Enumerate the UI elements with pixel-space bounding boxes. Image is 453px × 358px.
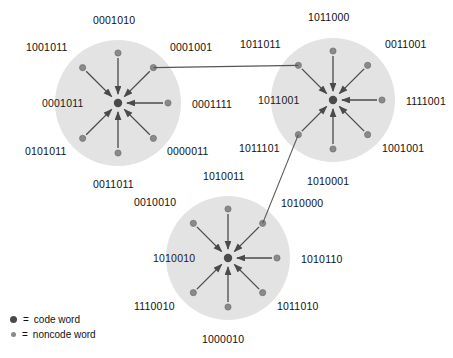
code-word-label: 1010010 bbox=[153, 252, 195, 264]
code-word-dot bbox=[329, 96, 337, 104]
noncode-word-label: 0001010 bbox=[93, 14, 135, 26]
noncode-word-label: 1011010 bbox=[277, 300, 319, 312]
noncode-word-label: 1011011 bbox=[240, 38, 281, 50]
noncode-word-label: 1010001 bbox=[307, 175, 349, 187]
noncode-word-dot bbox=[190, 220, 196, 226]
noncode-word-dot bbox=[225, 304, 231, 310]
hamming-spheres-figure: 0001010000100100011110000011001101101010… bbox=[0, 0, 453, 358]
noncode-word-label: 1000010 bbox=[202, 333, 244, 345]
noncode-word-dot bbox=[330, 48, 336, 54]
link-sphere1-sphere2 bbox=[153, 65, 298, 67]
code-word-dot bbox=[10, 316, 17, 323]
legend-equals: = bbox=[22, 329, 28, 340]
legend-noncode: =noncode word bbox=[10, 327, 96, 342]
noncode-word-dot bbox=[260, 290, 266, 296]
noncode-word-label: 1010110 bbox=[301, 253, 343, 265]
noncode-word-label: 0001111 bbox=[192, 98, 232, 110]
noncode-word-label: 1001011 bbox=[26, 41, 68, 53]
noncode-word-dot bbox=[379, 97, 385, 103]
noncode-word-dot bbox=[295, 132, 301, 138]
noncode-word-label: 1010000 bbox=[281, 197, 323, 209]
legend-label: noncode word bbox=[33, 329, 96, 340]
legend-equals: = bbox=[23, 314, 29, 325]
legend: =code word=noncode word bbox=[10, 312, 96, 342]
noncode-word-label: 1011000 bbox=[308, 11, 350, 23]
noncode-word-dot bbox=[115, 50, 121, 56]
noncode-word-label: 1111001 bbox=[406, 95, 446, 107]
code-word-label: 1011001 bbox=[258, 94, 300, 106]
noncode-word-dot bbox=[80, 65, 86, 71]
noncode-word-dot bbox=[165, 100, 171, 106]
noncode-word-dot bbox=[365, 62, 371, 68]
noncode-word-dot bbox=[274, 255, 280, 261]
noncode-word-dot bbox=[115, 150, 121, 156]
noncode-word-label: 1011101 bbox=[239, 142, 280, 154]
noncode-word-label: 1110010 bbox=[134, 300, 175, 312]
noncode-word-dot bbox=[225, 206, 231, 212]
code-word-dot bbox=[114, 99, 122, 107]
noncode-word-label: 0000011 bbox=[167, 145, 209, 157]
code-word-dot bbox=[224, 254, 232, 262]
noncode-word-dot bbox=[150, 135, 156, 141]
noncode-word-label: 0010010 bbox=[134, 196, 176, 208]
noncode-word-label: 0001001 bbox=[170, 41, 212, 53]
noncode-word-dot bbox=[80, 135, 86, 141]
noncode-word-label: 0011001 bbox=[385, 38, 427, 50]
legend-label: code word bbox=[34, 314, 80, 325]
noncode-word-label: 1010011 bbox=[203, 170, 245, 182]
noncode-word-dot bbox=[330, 146, 336, 152]
noncode-word-dot bbox=[11, 332, 16, 337]
noncode-word-dot bbox=[190, 290, 196, 296]
noncode-word-label: 0011011 bbox=[93, 178, 134, 190]
noncode-word-label: 0101011 bbox=[25, 145, 67, 157]
code-word-label: 0001011 bbox=[42, 97, 84, 109]
legend-codeword: =code word bbox=[10, 312, 96, 327]
noncode-word-dot bbox=[365, 132, 371, 138]
noncode-word-label: 1001001 bbox=[382, 142, 424, 154]
